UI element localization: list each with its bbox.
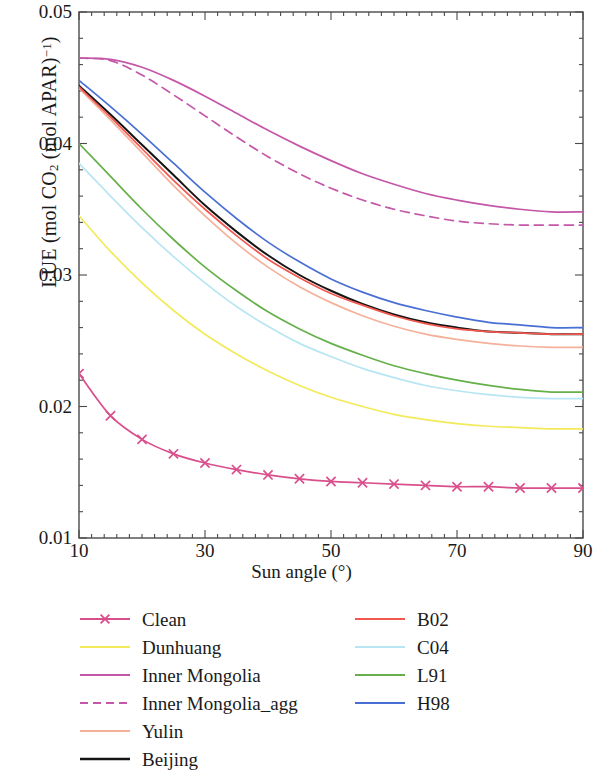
series-line-clean	[79, 374, 583, 488]
legend-label: Clean	[142, 610, 186, 629]
series-marker-clean	[106, 411, 115, 420]
legend-label: Yulin	[142, 722, 183, 741]
legend-line-icon	[78, 668, 132, 682]
chart-legend: CleanDunhuangInner MongoliaInner Mongoli…	[78, 605, 578, 775]
legend-label: Inner Mongolia_agg	[142, 694, 298, 713]
legend-item[interactable]: Inner Mongolia	[78, 661, 348, 689]
legend-item[interactable]: L91	[353, 661, 578, 689]
x-axis-title: Sun angle (°)	[0, 561, 603, 583]
legend-label: B02	[417, 610, 449, 629]
series-line-b02	[79, 87, 583, 334]
legend-label: Beijing	[142, 750, 198, 769]
series-line-beijing	[79, 86, 583, 335]
legend-column-right: B02C04L91H98	[353, 605, 578, 717]
series-line-yulin	[79, 88, 583, 347]
legend-line-icon	[353, 696, 407, 710]
series-line-c04	[79, 163, 583, 398]
plot-frame	[79, 12, 583, 538]
x-tick-label: 50	[301, 541, 361, 560]
legend-label: Inner Mongolia	[142, 666, 261, 685]
legend-label: H98	[417, 694, 450, 713]
legend-line-icon	[78, 640, 132, 654]
legend-item[interactable]: H98	[353, 689, 578, 717]
legend-item[interactable]: Clean	[78, 605, 348, 633]
legend-column-left: CleanDunhuangInner MongoliaInner Mongoli…	[78, 605, 348, 773]
legend-item[interactable]: Dunhuang	[78, 633, 348, 661]
x-tick-label: 70	[427, 541, 487, 560]
x-tick-label: 90	[553, 541, 603, 560]
series-line-l91	[79, 144, 583, 393]
plot-area	[0, 0, 603, 560]
legend-item[interactable]: Yulin	[78, 717, 348, 745]
series-line-inner-mongolia-agg	[79, 58, 583, 225]
legend-line-icon	[78, 696, 132, 710]
legend-line-icon	[78, 752, 132, 766]
legend-item[interactable]: Inner Mongolia_agg	[78, 689, 348, 717]
figure-lue-vs-sun-angle: LUE (mol CO2 (mol APAR)−1) 0.010.020.030…	[0, 0, 603, 779]
series-marker-clean	[137, 435, 146, 444]
x-tick-label: 30	[175, 541, 235, 560]
legend-item[interactable]: C04	[353, 633, 578, 661]
legend-label: Dunhuang	[142, 638, 221, 657]
legend-line-icon	[353, 612, 407, 626]
x-tick-label: 10	[49, 541, 109, 560]
legend-item[interactable]: Beijing	[78, 745, 348, 773]
legend-label: C04	[417, 638, 449, 657]
legend-line-icon	[78, 612, 132, 626]
series-marker-clean	[169, 449, 178, 458]
series-group	[74, 58, 587, 493]
legend-line-icon	[353, 640, 407, 654]
legend-item[interactable]: B02	[353, 605, 578, 633]
legend-line-icon	[353, 668, 407, 682]
legend-line-icon	[78, 724, 132, 738]
legend-label: L91	[417, 666, 448, 685]
